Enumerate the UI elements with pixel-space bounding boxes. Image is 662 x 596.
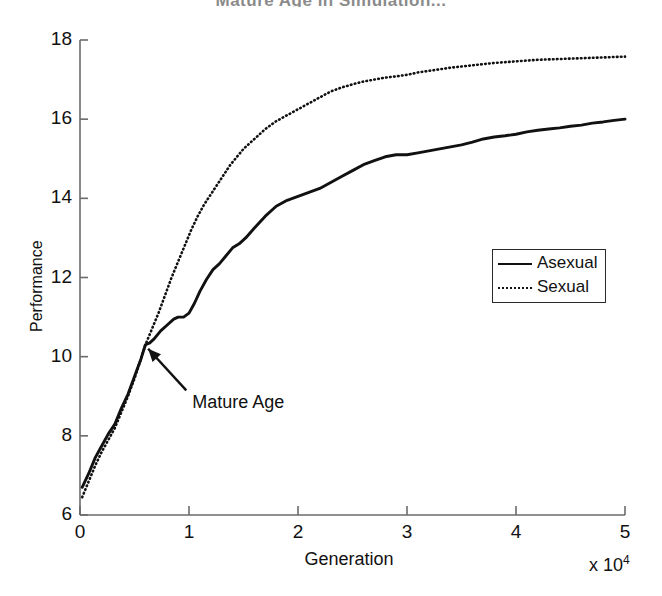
x-axis-tick-label: 2 xyxy=(283,521,313,543)
legend-item-sexual[interactable]: Sexual xyxy=(493,275,605,301)
legend-label-asexual: Asexual xyxy=(537,253,597,273)
mature-age-annotation-label: Mature Age xyxy=(192,392,284,413)
x-axis-multiplier: x 104 xyxy=(589,553,630,576)
y-axis-tick-label: 8 xyxy=(32,424,72,446)
chart-figure: Mature Age in Simulation... 681012141618… xyxy=(0,0,662,596)
x-axis-label: Generation xyxy=(305,549,394,570)
x-axis-tick-label: 4 xyxy=(501,521,531,543)
y-axis-tick-label: 18 xyxy=(32,28,72,50)
x-axis-tick-label: 0 xyxy=(65,521,95,543)
annotation-arrow-group xyxy=(148,349,186,391)
legend-label-sexual: Sexual xyxy=(537,277,589,297)
x-multiplier-exponent: 4 xyxy=(623,553,630,567)
series-line-asexual xyxy=(82,119,625,487)
x-axis-tick-label: 5 xyxy=(610,521,640,543)
x-axis-tick-label: 3 xyxy=(392,521,422,543)
legend-line-sample-dotted xyxy=(498,287,532,289)
legend-line-sample-solid xyxy=(498,263,532,265)
legend-item-asexual[interactable]: Asexual xyxy=(493,251,605,277)
y-axis-label: Performance xyxy=(28,240,46,332)
y-axis-tick-label: 16 xyxy=(32,107,72,129)
chart-legend: Asexual Sexual xyxy=(492,249,606,303)
x-multiplier-base: x 10 xyxy=(589,555,623,575)
y-axis-tick-label: 14 xyxy=(32,186,72,208)
y-axis-tick-label: 10 xyxy=(32,345,72,367)
x-axis-tick-label: 1 xyxy=(174,521,204,543)
